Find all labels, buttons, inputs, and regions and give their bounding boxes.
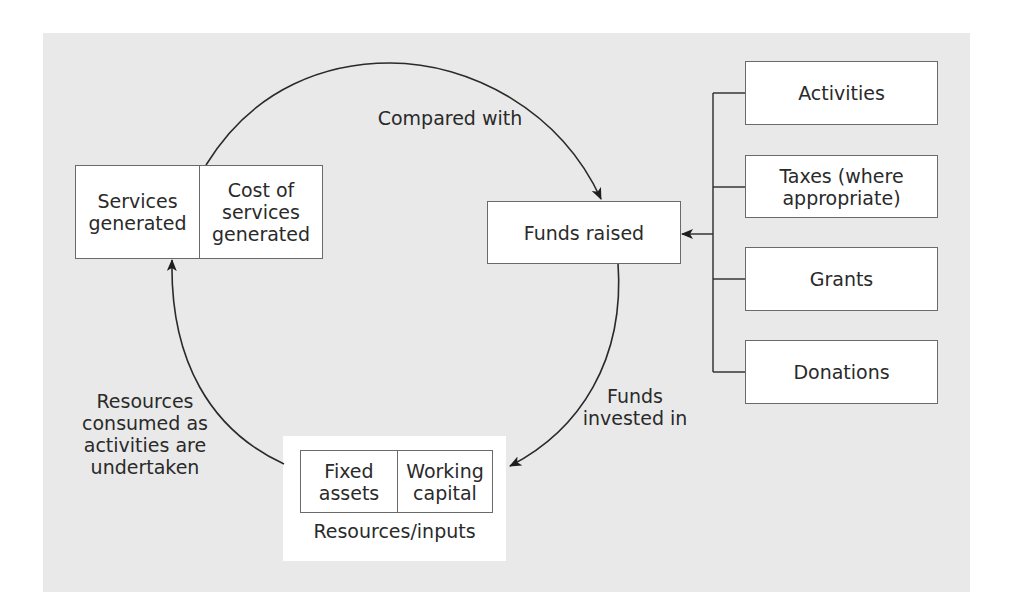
source-activities: Activities xyxy=(745,61,938,125)
edge-label-funds-invested: Funds invested in xyxy=(575,385,695,429)
resources-node: Fixed assets Working capital xyxy=(300,450,493,513)
source-taxes: Taxes (where appropriate) xyxy=(745,155,938,218)
services-generated-cell: Services generated xyxy=(76,166,199,258)
cost-of-services-cell: Cost of services generated xyxy=(199,166,322,258)
resources-caption: Resources/inputs xyxy=(283,520,506,542)
working-capital-cell: Working capital xyxy=(397,451,492,512)
fixed-assets-cell: Fixed assets xyxy=(301,451,397,512)
edge-label-compared-with: Compared with xyxy=(355,107,545,129)
source-grants: Grants xyxy=(745,247,938,311)
services-node: Services generated Cost of services gene… xyxy=(75,165,323,259)
source-donations: Donations xyxy=(745,340,938,404)
edge-label-resources-consumed: Resources consumed as activities are und… xyxy=(65,390,225,478)
funds-raised-node: Funds raised xyxy=(487,201,681,264)
